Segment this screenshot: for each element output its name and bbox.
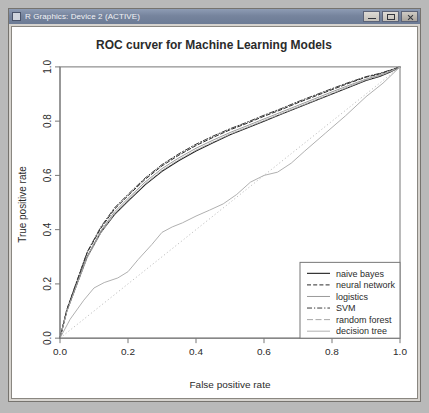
window-titlebar[interactable]: R Graphics: Device 2 (ACTIVE) xyxy=(9,9,420,24)
x-tick-label: 0.8 xyxy=(325,346,339,357)
maximize-icon[interactable] xyxy=(382,11,399,22)
y-tick-label: 0.8 xyxy=(42,114,53,128)
close-icon[interactable] xyxy=(401,11,418,22)
y-axis: 0.00.20.40.60.81.0 xyxy=(42,60,60,346)
y-axis-label: True positive rate xyxy=(17,166,28,243)
y-tick-label: 0.0 xyxy=(42,331,53,345)
x-tick-label: 0.0 xyxy=(53,346,67,357)
minimize-icon[interactable] xyxy=(363,11,380,22)
x-tick-label: 0.4 xyxy=(189,346,203,357)
r-graphics-window: R Graphics: Device 2 (ACTIVE) ROC curver… xyxy=(8,8,421,402)
legend-label: decision tree xyxy=(336,326,387,336)
legend-label: neural network xyxy=(336,280,395,290)
y-tick-label: 0.4 xyxy=(42,222,53,236)
x-tick-label: 0.2 xyxy=(121,346,135,357)
y-tick-label: 0.6 xyxy=(42,168,53,182)
x-axis: 0.00.20.40.60.81.0 xyxy=(53,338,407,357)
x-tick-label: 0.6 xyxy=(257,346,271,357)
x-axis-label: False positive rate xyxy=(189,379,270,390)
legend-label: random forest xyxy=(336,315,392,325)
legend-label: SVM xyxy=(336,303,355,313)
legend-label: logistics xyxy=(336,292,368,302)
chart-title: ROC curver for Machine Learning Models xyxy=(96,38,332,52)
roc-chart: ROC curver for Machine Learning Models 0… xyxy=(12,27,417,398)
r-graphics-icon xyxy=(12,12,21,21)
x-tick-label: 1.0 xyxy=(393,346,407,357)
y-tick-label: 0.2 xyxy=(42,277,53,291)
graphics-canvas: ROC curver for Machine Learning Models 0… xyxy=(11,26,418,399)
legend-label: naive bayes xyxy=(336,269,384,279)
y-tick-label: 1.0 xyxy=(42,60,53,74)
window-title: R Graphics: Device 2 (ACTIVE) xyxy=(25,12,361,21)
chart-legend[interactable]: naive bayesneural networklogisticsSVMran… xyxy=(300,262,400,338)
